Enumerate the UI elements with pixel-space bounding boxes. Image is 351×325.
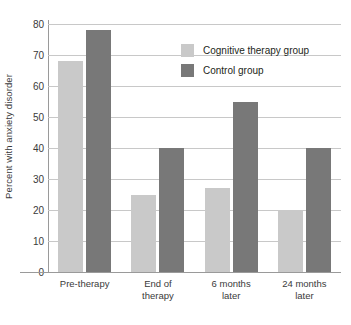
bar-chart: Percent with anxiety disorder 0102030405… bbox=[0, 0, 351, 325]
y-axis-tick-label: 50 bbox=[18, 112, 44, 123]
y-axis-tick-label: 40 bbox=[18, 143, 44, 154]
legend-label: Cognitive therapy group bbox=[203, 45, 309, 56]
category-label-line: later bbox=[268, 290, 341, 302]
legend-item: Control group bbox=[181, 62, 309, 79]
legend-swatch bbox=[181, 64, 194, 77]
y-axis-title-text: Percent with anxiety disorder bbox=[3, 74, 14, 199]
category-label-line: later bbox=[195, 290, 268, 302]
category-label-line: Pre-therapy bbox=[48, 278, 121, 290]
x-axis-category-label: 6 monthslater bbox=[195, 278, 268, 302]
legend-label: Control group bbox=[203, 65, 264, 76]
bar bbox=[159, 148, 184, 272]
bar bbox=[278, 210, 303, 272]
bar bbox=[58, 61, 83, 272]
bar bbox=[205, 188, 230, 272]
x-axis-category-label: Pre-therapy bbox=[48, 278, 121, 290]
bar bbox=[131, 195, 156, 273]
category-label-line: 6 months bbox=[195, 278, 268, 290]
legend-swatch bbox=[181, 44, 194, 57]
bar bbox=[86, 30, 111, 272]
category-label-line: 24 months bbox=[268, 278, 341, 290]
legend-item: Cognitive therapy group bbox=[181, 42, 309, 59]
bar bbox=[306, 148, 331, 272]
y-axis-tick-label: 80 bbox=[18, 19, 44, 30]
y-axis-tick-label: 10 bbox=[18, 236, 44, 247]
x-axis-category-labels: Pre-therapyEnd oftherapy6 monthslater24 … bbox=[48, 278, 341, 322]
bar bbox=[233, 102, 258, 273]
gridline bbox=[48, 24, 341, 25]
y-axis-tick-label: 60 bbox=[18, 81, 44, 92]
x-axis-category-label: End oftherapy bbox=[121, 278, 194, 302]
category-label-line: End of bbox=[121, 278, 194, 290]
x-axis-category-label: 24 monthslater bbox=[268, 278, 341, 302]
x-axis-line bbox=[20, 272, 341, 273]
y-axis-tick-label: 20 bbox=[18, 205, 44, 216]
category-label-line: therapy bbox=[121, 290, 194, 302]
y-axis-tick-label: 70 bbox=[18, 50, 44, 61]
y-axis-ticks: 01020304050607080 bbox=[14, 24, 44, 272]
y-axis-tick-label: 30 bbox=[18, 174, 44, 185]
chart-legend: Cognitive therapy groupControl group bbox=[181, 42, 309, 82]
